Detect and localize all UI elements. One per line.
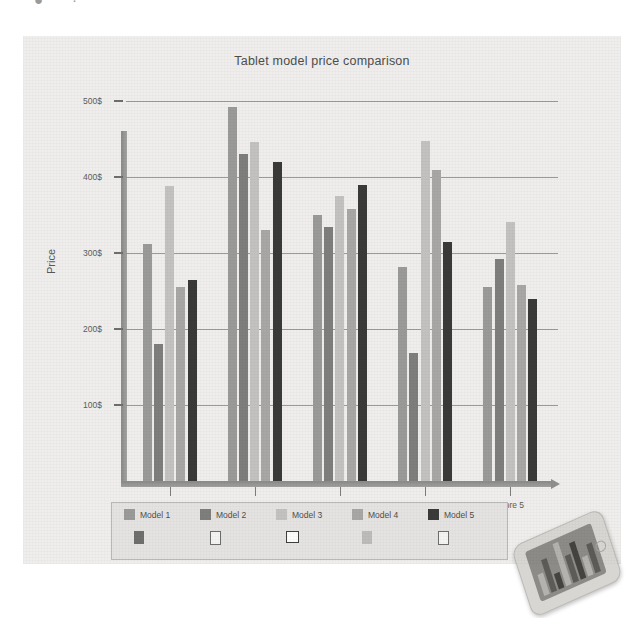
legend-secondary-swatch-1[interactable] <box>134 531 144 544</box>
legend-row-secondary <box>112 531 507 551</box>
x-tick-mark <box>510 487 511 496</box>
y-tick-mark <box>114 100 123 102</box>
bar-model-5-store-1 <box>188 280 197 481</box>
bar-model-5-store-3 <box>358 185 367 481</box>
legend-item-model-1[interactable]: Model 1 <box>124 509 170 520</box>
legend-item-model-4[interactable]: Model 4 <box>352 509 398 520</box>
y-axis-label: Price <box>45 249 57 274</box>
bar-model-5-store-2 <box>273 162 282 481</box>
y-tick-label: 200$ <box>83 324 102 334</box>
page-top-cutoff: ● · <box>0 0 644 12</box>
legend-item-model-2[interactable]: Model 2 <box>200 509 246 520</box>
bar-model-3-store-1 <box>165 186 174 481</box>
bar-model-3-store-3 <box>335 196 344 481</box>
x-tick-mark <box>255 487 256 496</box>
y-tick-mark <box>114 252 123 254</box>
bar-model-2-store-5 <box>495 259 504 481</box>
bar-group <box>383 86 468 481</box>
x-tick-mark <box>170 487 171 496</box>
x-axis-line <box>121 481 553 487</box>
legend-swatch-icon <box>286 531 299 543</box>
y-tick-label: 100$ <box>83 400 102 410</box>
bar-model-5-store-4 <box>443 242 452 481</box>
legend-item-model-3[interactable]: Model 3 <box>276 509 322 520</box>
legend-label: Model 4 <box>368 510 398 520</box>
bar-model-3-store-4 <box>421 141 430 481</box>
legend-secondary-swatch-5[interactable] <box>438 531 449 545</box>
bar-model-4-store-3 <box>347 209 356 481</box>
bar-group <box>127 86 212 481</box>
chart-title: Tablet model price comparison <box>23 54 621 68</box>
bar-model-1-store-3 <box>313 215 322 481</box>
legend-label: Model 3 <box>292 510 322 520</box>
legend-secondary-swatch-4[interactable] <box>362 531 372 544</box>
legend-secondary-swatch-2[interactable] <box>210 531 221 545</box>
bar-model-1-store-2 <box>228 107 237 481</box>
cutoff-glyph-1: ● <box>34 0 43 6</box>
legend-label: Model 1 <box>140 510 170 520</box>
legend-swatch-icon <box>352 509 363 520</box>
legend-label: Model 2 <box>216 510 246 520</box>
bar-model-4-store-5 <box>517 285 526 481</box>
y-tick-label: 500$ <box>83 96 102 106</box>
bar-model-2-store-1 <box>154 344 163 481</box>
x-tick-mark <box>340 487 341 496</box>
bar-series-container <box>127 86 553 481</box>
chart-figure: Tablet model price comparison Price 100$… <box>23 36 621 564</box>
legend-item-model-5[interactable]: Model 5 <box>428 509 474 520</box>
y-tick-label: 300$ <box>83 248 102 258</box>
bar-model-2-store-2 <box>239 154 248 481</box>
legend-secondary-swatch-3[interactable] <box>286 531 299 543</box>
bar-model-1-store-4 <box>398 267 407 481</box>
chart-legend: Model 1Model 2Model 3Model 4Model 5 <box>111 502 508 560</box>
bar-model-1-store-1 <box>143 244 152 481</box>
legend-swatch-icon <box>428 509 439 520</box>
cutoff-glyph-2: · <box>72 0 77 6</box>
bar-model-2-store-4 <box>409 353 418 481</box>
bar-model-3-store-2 <box>250 142 259 481</box>
bar-model-3-store-5 <box>506 222 515 481</box>
bar-model-4-store-4 <box>432 170 441 481</box>
tablet-photo <box>510 516 625 608</box>
legend-swatch-icon <box>134 531 144 544</box>
y-tick-mark <box>114 328 123 330</box>
tablet-body <box>511 508 624 618</box>
legend-swatch-icon <box>124 509 135 520</box>
bar-model-4-store-1 <box>176 287 185 481</box>
x-tick-mark <box>425 487 426 496</box>
legend-swatch-icon <box>210 531 221 545</box>
bar-model-4-store-2 <box>261 230 270 481</box>
y-tick-label: 400$ <box>83 172 102 182</box>
plot-area: 100$200$300$400$500$ Store 1Store 2Store… <box>108 86 558 486</box>
bar-group <box>297 86 382 481</box>
legend-swatch-icon <box>276 509 287 520</box>
legend-swatch-icon <box>438 531 449 545</box>
legend-row-primary: Model 1Model 2Model 3Model 4Model 5 <box>112 509 507 529</box>
y-tick-mark <box>114 176 123 178</box>
bar-model-2-store-3 <box>324 227 333 481</box>
y-tick-mark <box>114 404 123 406</box>
bar-group <box>212 86 297 481</box>
bar-model-5-store-5 <box>528 299 537 481</box>
legend-swatch-icon <box>200 509 211 520</box>
bar-model-1-store-5 <box>483 287 492 481</box>
tablet-screen <box>525 523 607 602</box>
legend-label: Model 5 <box>444 510 474 520</box>
legend-swatch-icon <box>362 531 372 544</box>
bar-group <box>468 86 553 481</box>
